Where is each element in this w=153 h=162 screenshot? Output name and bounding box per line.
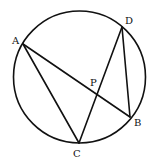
segment-cd <box>79 27 122 143</box>
segment-ab <box>23 44 130 117</box>
segment-ac <box>23 44 79 143</box>
label-c: C <box>73 148 81 159</box>
label-a: A <box>11 35 20 46</box>
label-b: B <box>134 117 141 128</box>
circle-chord-diagram: A D B C P <box>0 0 153 162</box>
segment-db <box>122 27 130 117</box>
label-d: D <box>125 15 133 26</box>
label-p: P <box>90 77 97 88</box>
